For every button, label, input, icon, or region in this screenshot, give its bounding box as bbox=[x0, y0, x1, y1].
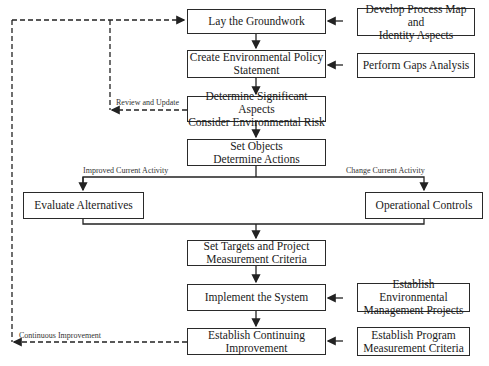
input-gaps-analysis: Perform Gaps Analysis bbox=[357, 53, 475, 78]
branch-operational-controls: Operational Controls bbox=[365, 192, 483, 219]
step-implement-system: Implement the System bbox=[187, 284, 326, 311]
label-review-update: Review and Update bbox=[116, 98, 179, 107]
step-label: Implement the System bbox=[205, 291, 308, 304]
step-lay-groundwork: Lay the Groundwork bbox=[187, 9, 326, 34]
label-improved-current-activity: Improved Current Activity bbox=[83, 166, 168, 175]
step-label-line2: Determine Actions bbox=[213, 153, 300, 166]
step-set-objects: Set Objects Determine Actions bbox=[187, 139, 326, 166]
step-label-line1: Set Targets and Project bbox=[204, 240, 310, 253]
input-label-line1: Establish Environmental bbox=[358, 278, 469, 304]
step-continuing-improvement: Establish Continuing Improvement bbox=[187, 328, 326, 355]
step-label-line2: Statement bbox=[234, 64, 280, 77]
step-label-line1: Set Objects bbox=[230, 140, 283, 153]
step-label-line1: Create Environmental Policy bbox=[190, 51, 324, 64]
step-label-line2: Improvement bbox=[226, 342, 288, 355]
input-label-line1: Develop Process Map and bbox=[358, 3, 474, 29]
branch-evaluate-alternatives: Evaluate Alternatives bbox=[23, 192, 144, 219]
input-env-projects: Establish Environmental Management Proje… bbox=[357, 283, 470, 312]
step-label-line1: Determine Significant Aspects bbox=[188, 90, 325, 116]
input-label: Perform Gaps Analysis bbox=[363, 59, 470, 72]
label-continuous-improvement: Continuous Improvement bbox=[19, 331, 101, 340]
step-environmental-policy: Create Environmental Policy Statement bbox=[187, 50, 326, 78]
step-set-targets: Set Targets and Project Measurement Crit… bbox=[187, 240, 326, 266]
branch-label: Operational Controls bbox=[376, 199, 473, 212]
input-program-criteria: Establish Program Measurement Criteria bbox=[357, 327, 470, 356]
step-label-line2: Consider Environmental Risk bbox=[188, 116, 325, 129]
step-label-line2: Measurement Criteria bbox=[206, 253, 307, 266]
input-label-line2: Measurement Criteria bbox=[363, 342, 464, 355]
step-label-line1: Establish Continuing bbox=[208, 329, 305, 342]
input-label-line2: Identity Aspects bbox=[379, 29, 453, 42]
input-label-line2: Management Projects bbox=[364, 304, 464, 317]
label-change-current-activity: Change Current Activity bbox=[346, 166, 425, 175]
input-label-line1: Establish Program bbox=[371, 329, 456, 342]
step-label: Lay the Groundwork bbox=[208, 15, 304, 28]
input-process-map: Develop Process Map and Identity Aspects bbox=[357, 8, 475, 36]
branch-label: Evaluate Alternatives bbox=[34, 199, 133, 212]
step-significant-aspects: Determine Significant Aspects Consider E… bbox=[187, 96, 326, 122]
